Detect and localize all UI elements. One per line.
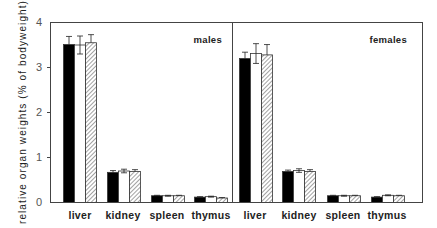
panel-label-males: males — [194, 34, 222, 45]
panel-label-females: females — [370, 34, 407, 45]
category-label-spleen: spleen — [325, 209, 360, 221]
bar-females-thymus-black — [372, 197, 383, 202]
error-bar — [242, 52, 248, 58]
bars-layer — [64, 35, 405, 203]
category-label-kidney: kidney — [105, 209, 140, 221]
category-label-kidney: kidney — [281, 209, 316, 221]
bar-males-kidney-hatched — [130, 171, 141, 202]
bar-females-spleen-white — [339, 196, 350, 203]
bar-females-liver-hatched — [262, 55, 273, 203]
y-tick-1: 1 — [36, 151, 42, 163]
bar-females-thymus-hatched — [394, 196, 405, 203]
bar-males-thymus-hatched — [217, 198, 228, 203]
y-tick-3: 3 — [36, 61, 42, 73]
category-label-thymus: thymus — [191, 209, 230, 221]
bar-males-liver-white — [75, 45, 86, 203]
bar-males-spleen-white — [163, 196, 174, 203]
category-label-liver: liver — [243, 209, 266, 221]
bar-females-liver-black — [240, 59, 251, 203]
error-bar — [66, 36, 72, 44]
bar-males-kidney-black — [108, 172, 119, 202]
error-bar — [264, 45, 270, 55]
bar-males-liver-hatched — [86, 43, 97, 203]
y-tick-labels: 0 1 2 3 4 — [36, 16, 42, 208]
bar-males-spleen-hatched — [174, 196, 185, 203]
y-tick-4: 4 — [36, 16, 42, 28]
bar-males-thymus-white — [206, 197, 217, 203]
bar-males-spleen-black — [152, 196, 163, 203]
error-bar — [88, 35, 94, 43]
bar-males-liver-black — [64, 45, 75, 203]
bar-females-spleen-hatched — [350, 196, 361, 203]
bar-females-kidney-white — [294, 171, 305, 203]
bar-females-liver-white — [251, 54, 262, 203]
bar-females-kidney-hatched — [305, 171, 316, 202]
bar-males-kidney-white — [119, 171, 130, 203]
bar-females-thymus-white — [383, 195, 394, 202]
plot-frame — [47, 23, 423, 203]
bar-females-kidney-black — [283, 171, 294, 202]
x-category-labels-females: liver kidney spleen thymus — [243, 209, 406, 221]
bar-females-spleen-black — [328, 196, 339, 203]
x-category-labels-males: liver kidney spleen thymus — [68, 209, 230, 221]
category-label-thymus: thymus — [367, 209, 406, 221]
category-label-spleen: spleen — [149, 209, 184, 221]
bar-males-thymus-black — [195, 197, 206, 202]
y-tick-2: 2 — [36, 106, 42, 118]
bar-chart: relative organ weights (% of bodyweight)… — [0, 0, 437, 228]
category-label-liver: liver — [68, 209, 91, 221]
y-axis-label: relative organ weights (% of bodyweight) — [17, 0, 28, 224]
y-tick-0: 0 — [36, 196, 42, 208]
